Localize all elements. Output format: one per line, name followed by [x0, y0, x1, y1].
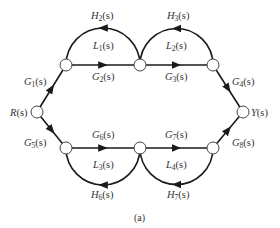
label-l2: L2(s) — [165, 40, 187, 53]
branch-g1 — [37, 65, 66, 112]
label-g6: G6(s) — [92, 129, 115, 142]
label-h2: H2(s) — [90, 10, 114, 23]
label-l4: L4(s) — [165, 159, 187, 172]
node-bottom-2 — [134, 142, 146, 154]
label-g1: G1(s) — [24, 76, 47, 89]
label-g8: G8(s) — [232, 137, 255, 150]
node-top-2 — [134, 59, 146, 71]
label-h7: H7(s) — [166, 189, 190, 202]
node-bottom-1 — [60, 142, 72, 154]
node-r — [31, 106, 43, 118]
node-bottom-3 — [207, 142, 219, 154]
node-y — [237, 106, 249, 118]
branch-g4 — [213, 65, 243, 112]
label-l1: L1(s) — [92, 40, 114, 53]
label-l3: L3(s) — [92, 159, 114, 172]
label-g7: G7(s) — [165, 129, 188, 142]
label-g4: G4(s) — [232, 76, 255, 89]
label-y: Y(s) — [251, 107, 268, 119]
label-g5: G5(s) — [24, 137, 47, 150]
label-g2: G2(s) — [92, 71, 115, 84]
label-h3: H3(s) — [166, 10, 190, 23]
label-h6: H6(s) — [90, 189, 114, 202]
label-r: R(s) — [9, 107, 28, 119]
node-top-3 — [207, 59, 219, 71]
label-g3: G3(s) — [165, 71, 188, 84]
figure-caption: (a) — [134, 212, 145, 224]
node-top-1 — [60, 59, 72, 71]
signal-flow-graph: R(s) Y(s) G1(s) G2(s) G3(s) G4(s) G5(s) … — [0, 0, 280, 228]
